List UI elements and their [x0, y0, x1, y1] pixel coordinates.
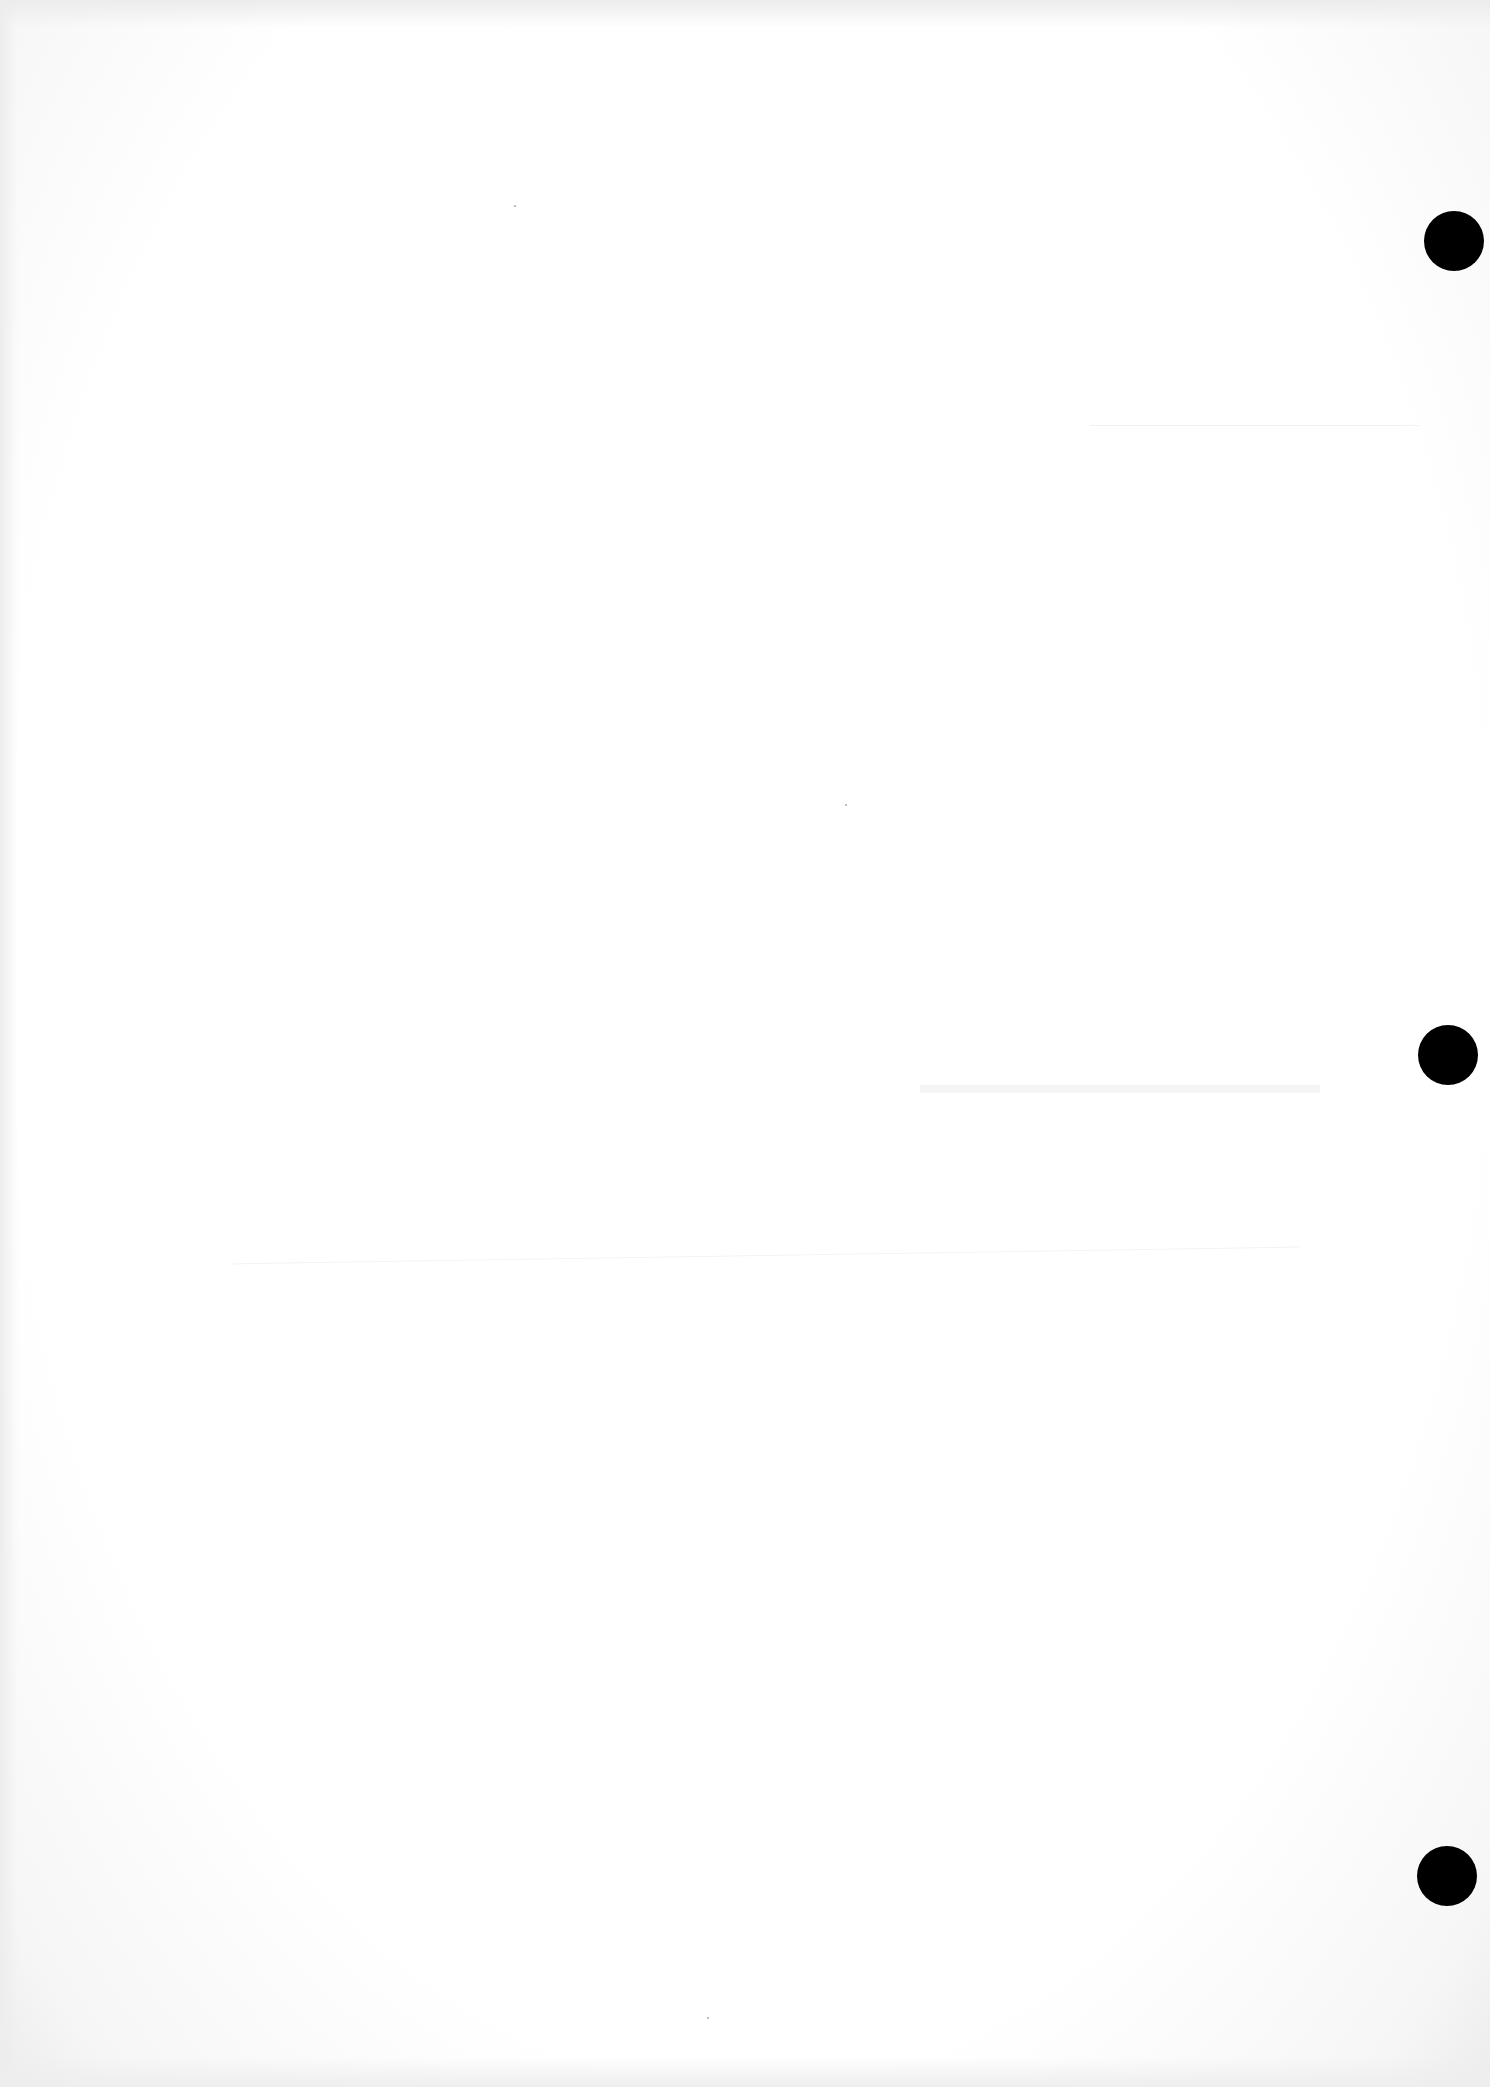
punch-hole-middle: [1418, 1025, 1478, 1085]
scan-speck: [514, 205, 516, 207]
scanned-page: [0, 0, 1490, 2087]
scan-speck: [845, 804, 847, 806]
scan-speck: [707, 2017, 709, 2019]
bleed-through-line: [920, 1085, 1320, 1093]
page-edge-shadow-top: [0, 0, 1490, 28]
bleed-through-line: [1090, 425, 1420, 426]
punch-hole-bottom: [1417, 1846, 1477, 1906]
page-edge-shadow-bottom: [0, 2057, 1490, 2087]
bleed-through-line: [230, 1247, 1300, 1265]
punch-hole-top: [1424, 211, 1484, 271]
page-edge-shadow-left: [0, 0, 18, 2087]
